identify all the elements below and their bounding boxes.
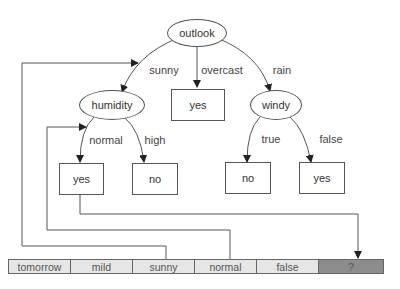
node-outlook-label: outlook (179, 27, 214, 39)
leaf-overcast-yes: yes (171, 89, 225, 121)
branch-sunny-label: sunny (149, 64, 178, 76)
instance-cell-day: tomorrow (8, 259, 71, 274)
node-windy-label: windy (262, 99, 290, 111)
node-humidity-label: humidity (92, 99, 133, 111)
leaf-humidity-normal-yes: yes (59, 163, 104, 195)
branch-false-label: false (319, 133, 342, 145)
node-humidity: humidity (79, 90, 145, 120)
instance-cell-humidity: normal (194, 259, 257, 274)
leaf-windy-false-yes-label: yes (313, 172, 330, 184)
instance-cell-prediction: ? (318, 259, 384, 274)
instance-row: tomorrow mild sunny normal false ? (8, 259, 384, 274)
instance-cell-windy: false (256, 259, 319, 274)
leaf-windy-true-no-label: no (242, 172, 254, 184)
branch-rain-label: rain (273, 64, 291, 76)
leaf-windy-false-yes: yes (299, 162, 345, 194)
leaf-humidity-high-no-label: no (149, 173, 161, 185)
leaf-windy-true-no: no (225, 162, 271, 194)
leaf-overcast-yes-label: yes (189, 99, 206, 111)
leaf-humidity-high-no: no (132, 163, 178, 195)
node-windy: windy (250, 90, 302, 120)
branch-high-label: high (145, 134, 166, 146)
node-outlook: outlook (167, 19, 227, 47)
instance-cell-outlook: sunny (132, 259, 195, 274)
branch-overcast-label: overcast (201, 64, 243, 76)
leaf-humidity-normal-yes-label: yes (73, 173, 90, 185)
instance-cell-temperature: mild (70, 259, 133, 274)
branch-normal-label: normal (89, 134, 123, 146)
branch-true-label: true (262, 133, 281, 145)
